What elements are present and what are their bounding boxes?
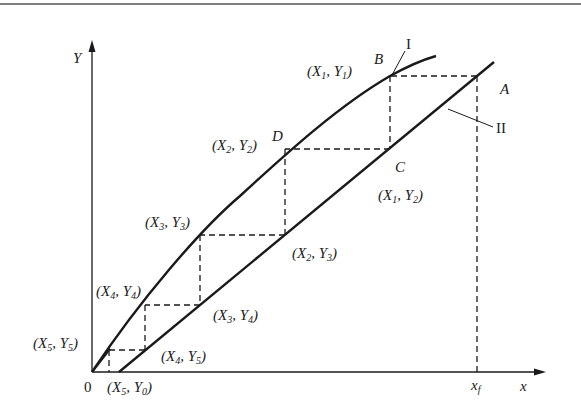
coord-X5Y5: (X5, Y5)	[33, 335, 78, 353]
x-axis-arrow-icon	[534, 369, 546, 376]
curve-label-II: II	[496, 120, 506, 136]
point-D: D	[271, 128, 283, 144]
coord-X5Y0: (X5, Y0)	[107, 379, 152, 397]
coord-X2Y3: (X2, Y3)	[292, 245, 337, 263]
equilibrium-curve-I	[92, 56, 436, 372]
coord-X2Y2: (X2, Y2)	[212, 137, 257, 155]
x-axis-label: x	[519, 378, 527, 394]
point-C: C	[395, 159, 406, 175]
y-axis-arrow-icon	[89, 40, 96, 52]
xf-label: xf	[470, 377, 482, 395]
leader-II	[448, 109, 493, 127]
coord-X1Y1: (X1, Y1)	[307, 63, 352, 81]
coord-X4Y4: (X4, Y4)	[96, 283, 141, 301]
y-axis-label: Y	[73, 50, 83, 66]
origin-label: 0	[84, 379, 92, 395]
coord-X4Y5: (X4, Y5)	[161, 348, 206, 366]
coord-X3Y4: (X3, Y4)	[213, 307, 258, 325]
stage-diagram: I II Y x 0 xf A B C D (X1, Y1) (X1, Y2) …	[0, 0, 581, 418]
point-A: A	[499, 81, 510, 97]
curve-label-I: I	[406, 36, 411, 52]
coord-X3Y3: (X3, Y3)	[145, 214, 190, 232]
point-B: B	[374, 51, 383, 67]
coord-X1Y2: (X1, Y2)	[378, 187, 423, 205]
